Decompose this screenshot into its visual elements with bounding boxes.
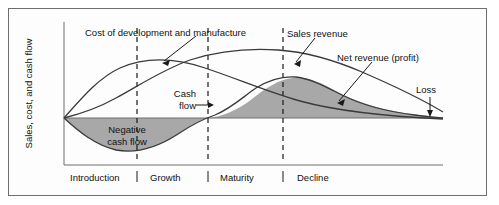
stage-label-growth: Growth [150,172,181,183]
annotation-negative-cash-flow-line2: cash flow [92,136,162,148]
net-revenue-leader-line [339,62,372,101]
annotation-negative-cash-flow-line1: Negative [92,124,162,136]
stage-label-decline: Decline [297,172,329,183]
loss-leader-arrowhead [427,110,433,117]
annotation-sales-revenue: Sales revenue [287,28,348,39]
cash-flow-leader-arrowhead [208,102,214,108]
product-life-cycle-figure: Sales, cost, and cash flow Cost of devel… [0,0,499,205]
annotation-net-revenue: Net revenue (profit) [337,52,419,63]
stage-label-maturity: Maturity [220,172,254,183]
sales-leader-arrowhead [294,60,301,67]
cost-leader-line [164,36,196,61]
stage-label-introduction: Introduction [70,172,120,183]
annotation-loss: Loss [416,84,436,95]
annotation-cash-flow-line2: flow [160,100,196,112]
annotation-cash-flow-line1: Cash [160,88,196,100]
cost-leader-arrowhead [162,60,170,66]
sales-leader-line [296,38,315,62]
annotation-cost-of-development: Cost of development and manufacture [85,27,246,38]
y-axis-label: Sales, cost, and cash flow [23,24,34,164]
